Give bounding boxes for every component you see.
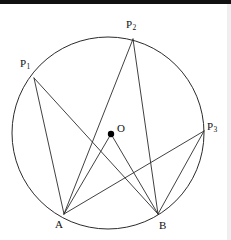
segment-p3-b: [158, 131, 204, 214]
point-label-subscript-p1: 1: [26, 62, 30, 71]
point-label-subscript-p2: 2: [132, 23, 136, 32]
segment-p2-b: [133, 39, 158, 214]
point-label-o: O: [117, 123, 125, 134]
diagram-canvas: [0, 0, 231, 240]
segment-o-b: [111, 134, 158, 214]
right-edge-band: [227, 4, 231, 240]
point-label-b: B: [159, 220, 166, 231]
point-label-a: A: [55, 219, 63, 230]
point-label-p2: P2: [126, 19, 136, 30]
point-label-subscript-p3: 3: [213, 125, 217, 134]
segment-o-a: [64, 134, 111, 214]
center-point-o: [108, 131, 114, 137]
geometry-figure: P1 P2 P3 O A B: [0, 0, 231, 240]
point-label-text-b: B: [159, 219, 166, 231]
point-label-text-o: O: [117, 122, 125, 134]
segment-p1-b: [34, 78, 158, 214]
segment-p1-a: [34, 78, 64, 214]
point-label-p1: P1: [20, 58, 30, 69]
point-label-text-a: A: [55, 218, 63, 230]
point-label-p3: P3: [207, 121, 217, 132]
